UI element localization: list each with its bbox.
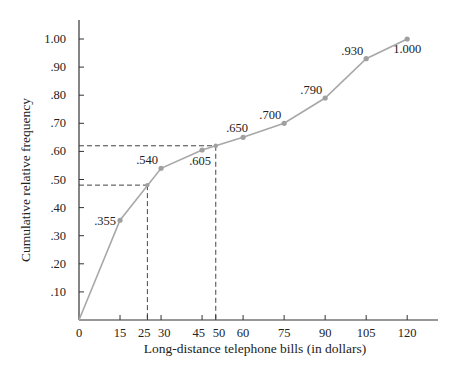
reference-point-marker [214,144,218,148]
ogive-chart: 01525304550607590105120.10.20.30.40.50.6… [0,0,456,375]
y-tick-label: .40 [50,201,66,215]
y-tick-label: .20 [50,257,66,271]
x-tick-label: 120 [398,326,417,340]
y-tick-label: 1.00 [44,32,66,46]
x-tick-label: 30 [158,326,171,340]
point-label: .540 [136,153,158,167]
point-label: .700 [259,108,281,122]
x-tick-label: 45 [193,326,206,340]
point-label: .790 [300,83,322,97]
x-tick-label: 50 [213,326,226,340]
axes: 01525304550607590105120.10.20.30.40.50.6… [44,20,438,340]
x-tick-label: 25 [138,326,151,340]
y-tick-label: .70 [50,116,66,130]
y-axis-label: Cumulative relative frequency [18,98,33,262]
x-tick-label: 75 [278,326,291,340]
x-tick-label: 60 [237,326,250,340]
data-point-marker [117,218,122,223]
y-tick-label: .50 [50,173,66,187]
data-point-marker [199,147,204,152]
y-tick-label: .60 [50,144,66,158]
data-point-marker [364,56,369,61]
data-point-marker [323,95,328,100]
x-tick-label: 90 [319,326,332,340]
point-label: 1.000 [393,42,421,56]
data-point-marker [158,166,163,171]
x-tick-label: 15 [114,326,127,340]
x-tick-label: 0 [76,326,82,340]
y-tick-label: .80 [50,88,66,102]
reference-lines [79,146,216,320]
data-point-marker [282,121,287,126]
data-point-marker [405,36,410,41]
y-tick-label: .10 [50,285,66,299]
y-tick-label: .30 [50,229,66,243]
y-tick-label: .90 [50,60,66,74]
x-tick-label: 105 [357,326,376,340]
reference-point-marker [145,183,149,187]
point-label: .650 [226,121,248,135]
data-point-marker [241,135,246,140]
data-series [79,36,410,320]
x-axis-label: Long-distance telephone bills (in dollar… [144,341,367,356]
point-label: .930 [341,44,363,58]
point-label: .605 [189,154,211,168]
point-labels: .355.540.605.650.700.790.9301.000 [94,42,421,228]
point-label: .355 [94,214,116,228]
ogive-line [79,39,407,320]
